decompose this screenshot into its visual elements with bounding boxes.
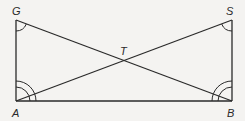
label-s: S <box>226 5 234 17</box>
angle-mark-b <box>212 81 232 101</box>
label-g: G <box>12 5 21 17</box>
geometry-diagram: G S A B T <box>0 0 245 121</box>
label-b: B <box>227 107 234 119</box>
angle-mark-s <box>222 24 232 31</box>
angle-mark-g <box>16 24 26 31</box>
angle-mark-a <box>16 81 36 101</box>
label-a: A <box>11 107 19 119</box>
label-t: T <box>120 45 128 57</box>
